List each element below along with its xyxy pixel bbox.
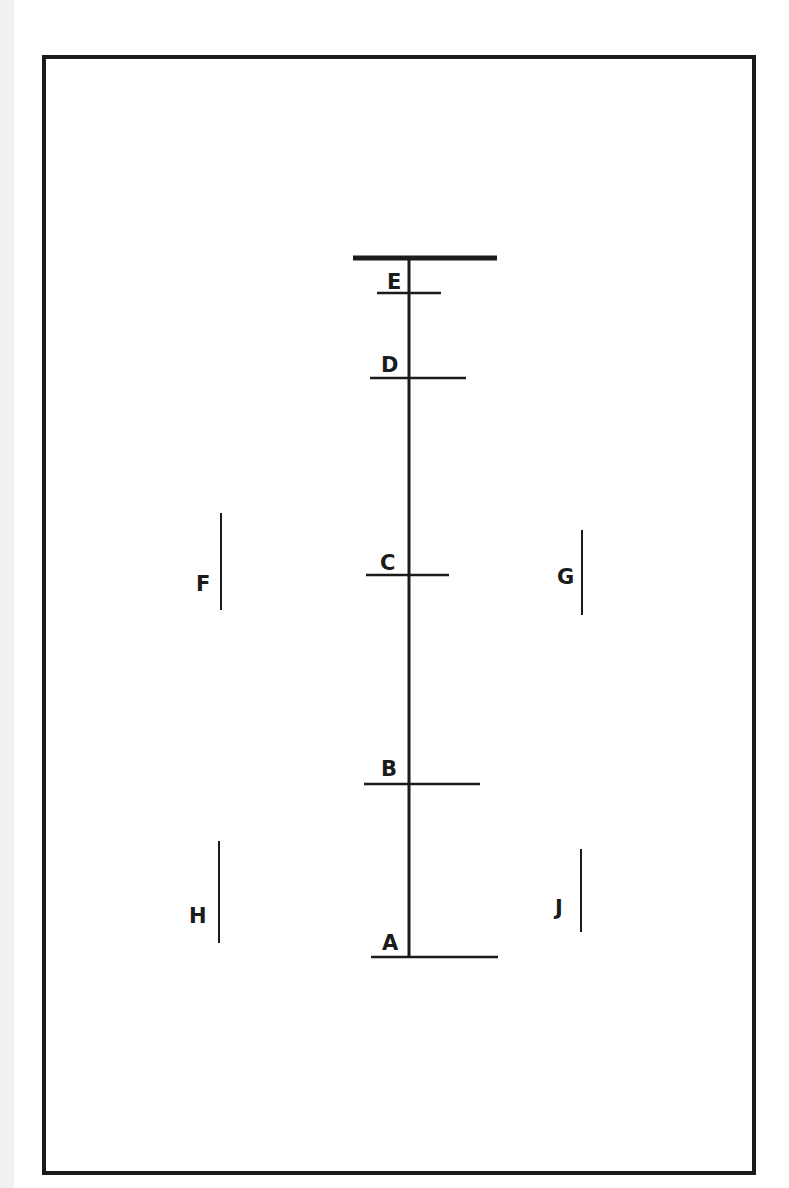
station-label-d: D [381, 353, 398, 377]
diagram-canvas: EDCBA FGHJ [0, 0, 789, 1188]
marker-label-g: G [557, 565, 574, 589]
marker-label-j: J [553, 896, 563, 920]
station-group: EDCBA [364, 270, 498, 957]
marker-group: FGHJ [189, 513, 582, 943]
station-label-c: C [380, 551, 395, 575]
station-label-a: A [382, 931, 399, 955]
marker-label-f: F [196, 572, 210, 596]
station-label-e: E [387, 270, 401, 294]
station-label-b: B [381, 757, 397, 781]
marker-label-h: H [189, 904, 207, 928]
diagram-frame [44, 57, 754, 1173]
